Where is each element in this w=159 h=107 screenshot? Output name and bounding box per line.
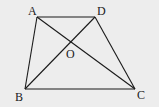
segment-dc [95,17,135,89]
trapezoid-diagram: A D B C O [0,0,159,107]
label-a: A [28,4,37,18]
label-b: B [15,90,23,104]
label-c: C [137,88,145,102]
label-o: O [66,47,75,61]
geometry-figure: A D B C O [0,0,159,107]
label-d: D [97,4,106,18]
diagonal-ac [37,17,135,89]
